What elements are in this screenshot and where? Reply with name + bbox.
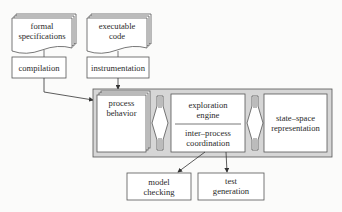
- exploration-engine-label: exploration engine: [171, 99, 245, 121]
- inter-process-coordination-label: inter–process coordination: [171, 127, 245, 149]
- compilation-arrow: [44, 78, 93, 100]
- test-generation-label: test generation: [198, 174, 264, 197]
- process-behavior-label: process behavior: [97, 97, 146, 119]
- formal-specifications-label: formal specifications: [12, 20, 72, 42]
- model-checking-label: model checking: [127, 175, 191, 198]
- state-space-label: state–space representation: [264, 112, 327, 134]
- executable-code-label: executable code: [87, 20, 147, 42]
- compilation-label: compilation: [12, 57, 66, 78]
- instrumentation-label: instrumentation: [87, 57, 149, 78]
